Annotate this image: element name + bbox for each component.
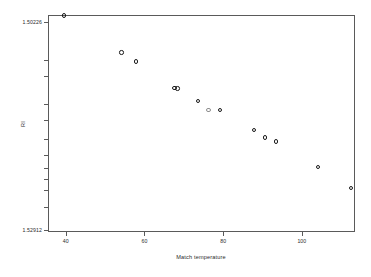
y-axis-tick — [44, 230, 48, 231]
y-axis-tick — [44, 168, 48, 169]
x-axis-tick — [144, 232, 145, 236]
y-axis-tick — [44, 207, 48, 208]
scatter-plot: 4060801001.502261.52912 Match temperatur… — [0, 0, 371, 277]
x-axis-tick-label: 100 — [297, 238, 306, 244]
data-point — [62, 13, 66, 17]
data-point — [263, 135, 267, 139]
data-point — [196, 99, 200, 103]
y-axis-tick — [44, 120, 48, 121]
x-axis-tick — [66, 232, 67, 236]
x-axis-tick-label: 80 — [220, 238, 226, 244]
x-axis-tick-label: 40 — [63, 238, 69, 244]
x-axis-title: Match temperature — [176, 254, 226, 260]
y-axis-tick — [44, 22, 48, 23]
data-points-layer — [48, 15, 355, 232]
data-point — [119, 50, 123, 54]
data-point — [274, 139, 278, 143]
data-point — [175, 86, 179, 90]
x-axis-tick-label: 60 — [141, 238, 147, 244]
data-point — [349, 186, 353, 190]
data-point — [134, 59, 138, 63]
y-axis-tick — [44, 60, 48, 61]
x-axis-tick — [223, 232, 224, 236]
y-axis-title: RI — [20, 121, 26, 127]
y-axis-tick — [44, 179, 48, 180]
y-axis-tick-label: 1.52912 — [23, 227, 42, 233]
y-axis-tick — [44, 76, 48, 77]
y-axis-tick — [44, 104, 48, 105]
y-axis-tick — [44, 155, 48, 156]
y-axis-tick-label: 1.50226 — [23, 19, 42, 25]
x-axis-tick — [302, 232, 303, 236]
y-axis-tick — [44, 190, 48, 191]
data-point — [206, 108, 210, 112]
data-point — [218, 108, 222, 112]
data-point — [252, 128, 256, 132]
y-axis-tick — [44, 139, 48, 140]
data-point — [316, 165, 320, 169]
